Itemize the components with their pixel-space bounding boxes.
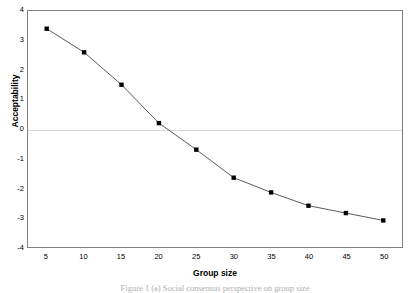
data-point-marker [82, 50, 86, 54]
data-point-marker [306, 204, 310, 208]
figure-caption: Figure 1 (a) Social consensus perspectiv… [27, 283, 403, 293]
x-axis-title: Group size [27, 268, 403, 278]
y-tick-label: -2 [8, 185, 24, 193]
data-point-marker [269, 190, 273, 194]
y-tick-label: 3 [8, 36, 24, 44]
y-tick-label: -3 [8, 214, 24, 222]
y-tick-label: 0 [8, 125, 24, 133]
x-tick-label: 10 [68, 252, 98, 261]
series-line-acceptability [28, 11, 402, 247]
x-tick-label: 45 [332, 252, 362, 261]
x-tick-label: 35 [256, 252, 286, 261]
data-point-marker [157, 121, 161, 125]
data-point-marker [119, 83, 123, 87]
y-axis-tick-labels: 43210-1-2-3-4 [8, 0, 24, 292]
y-tick-label: 1 [8, 95, 24, 103]
data-point-marker [45, 27, 49, 31]
data-point-marker [232, 175, 236, 179]
y-tick-label: 2 [8, 66, 24, 74]
data-point-marker [344, 211, 348, 215]
x-tick-label: 15 [106, 252, 136, 261]
y-tick-label: 4 [8, 6, 24, 14]
plot-area [27, 10, 403, 248]
x-tick-label: 50 [369, 252, 399, 261]
x-tick-label: 40 [294, 252, 324, 261]
series-polyline [47, 29, 384, 221]
data-point-marker [381, 218, 385, 222]
x-axis-tick-labels: 5101520253035404550 [27, 252, 403, 264]
data-point-marker [194, 147, 198, 151]
x-tick-label: 20 [144, 252, 174, 261]
y-tick-label: -1 [8, 155, 24, 163]
x-tick-label: 25 [181, 252, 211, 261]
y-tick-label: -4 [8, 244, 24, 252]
x-tick-label: 5 [31, 252, 61, 261]
x-tick-label: 30 [219, 252, 249, 261]
